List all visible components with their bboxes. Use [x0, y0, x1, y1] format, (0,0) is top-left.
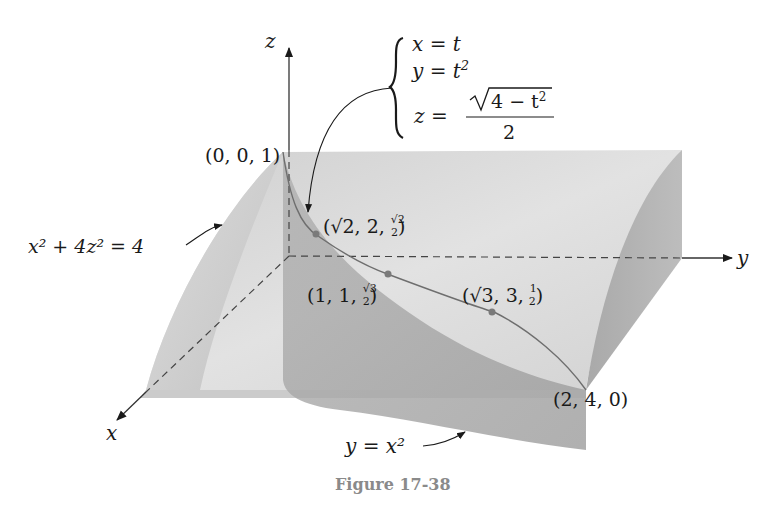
point-label-sqrt3: (√3, 3, 12) — [462, 282, 543, 308]
cylinder-surface-label: x² + 4z² = 4 — [28, 235, 144, 257]
z-equation-lhs: z = — [413, 104, 448, 128]
point-sqrt3 — [489, 309, 496, 316]
y-equation: y = t2 — [411, 58, 469, 83]
parabolic-callout-arrow — [423, 432, 465, 446]
x-equation: x = t — [412, 32, 462, 56]
point-1-1 — [385, 271, 392, 278]
point-label-001: (0, 0, 1) — [205, 144, 280, 166]
parabolic-surface-label: y = x² — [344, 434, 405, 458]
point-label-1-1: (1, 1, √32) — [307, 282, 377, 308]
y-axis-label: y — [736, 246, 749, 270]
point-label-240: (2, 4, 0) — [553, 388, 628, 410]
left-brace — [390, 38, 403, 138]
x-axis — [117, 392, 146, 420]
point-sqrt2 — [313, 231, 320, 238]
z-denominator: 2 — [503, 121, 515, 143]
z-numerator: 4 − t2 — [491, 90, 546, 112]
z-axis-label: z — [264, 29, 276, 53]
parametric-equations: x = t y = t2 z = 4 − t2 2 — [390, 32, 554, 143]
figure-17-38: z y x x = t y = t2 z = 4 − t2 2 (0, 0, 1… — [0, 0, 782, 507]
figure-caption: Figure 17-38 — [335, 475, 451, 494]
x-axis-label: x — [106, 421, 117, 445]
point-label-sqrt2: (√2, 2, √22) — [323, 213, 405, 239]
floor-front — [140, 390, 586, 398]
